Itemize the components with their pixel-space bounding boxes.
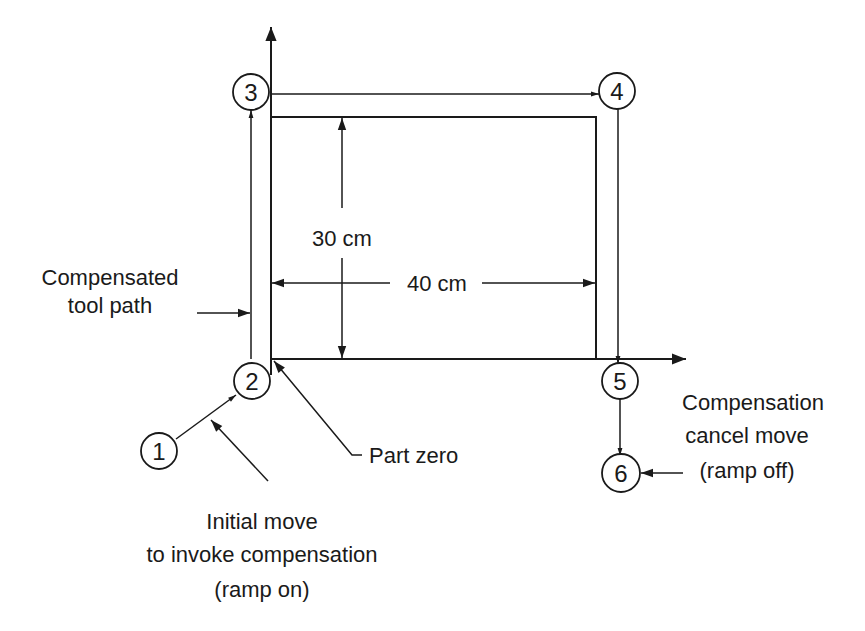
svg-text:1: 1	[152, 438, 165, 465]
dimensions: 30 cm 40 cm	[272, 118, 595, 358]
tool-path	[176, 94, 620, 456]
cancel-move-label-1: Compensation	[682, 390, 824, 415]
point-2: 2	[234, 363, 270, 399]
diagram-canvas: 30 cm 40 cm 1 2 3 4 5 6	[0, 0, 865, 631]
compensated-path-label-1: Compensated	[42, 265, 179, 290]
cancel-move-label-3: (ramp off)	[700, 458, 795, 483]
part-zero-label: Part zero	[369, 443, 458, 468]
point-5: 5	[602, 363, 638, 399]
compensated-path-label-2: tool path	[68, 293, 152, 318]
initial-move-label-1: Initial move	[206, 509, 317, 534]
svg-text:4: 4	[610, 78, 623, 105]
initial-move-label-3: (ramp on)	[214, 577, 309, 602]
point-1: 1	[141, 433, 177, 469]
point-3: 3	[233, 74, 269, 110]
svg-text:6: 6	[614, 460, 627, 487]
initial-move-label-2: to invoke compensation	[146, 542, 377, 567]
path-1-to-2	[176, 395, 236, 439]
svg-text:3: 3	[244, 79, 257, 106]
height-label: 30 cm	[312, 226, 372, 251]
svg-text:5: 5	[613, 368, 626, 395]
point-4: 4	[599, 73, 635, 109]
part-zero-leader	[274, 361, 362, 455]
toolpath-diagram: 30 cm 40 cm 1 2 3 4 5 6	[0, 0, 865, 631]
svg-text:2: 2	[245, 368, 258, 395]
width-label: 40 cm	[407, 271, 467, 296]
initial-move-leader	[211, 420, 268, 481]
cancel-move-label-2: cancel move	[685, 423, 809, 448]
point-6: 6	[602, 454, 640, 492]
